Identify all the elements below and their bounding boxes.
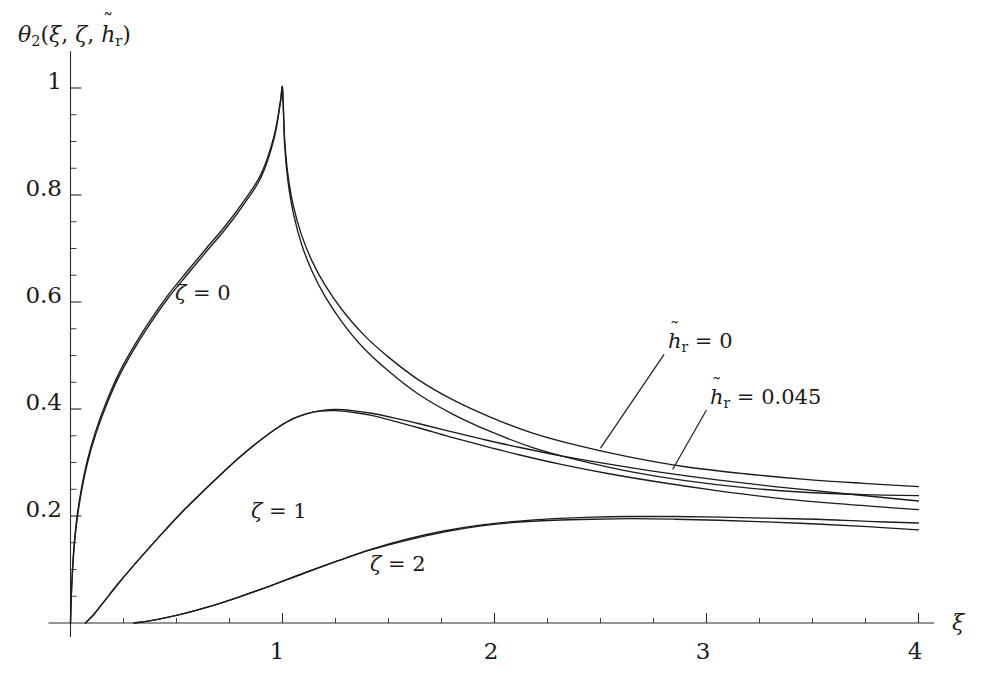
curve-4 [134,516,918,623]
x-tick-label-3: 3 [688,640,718,663]
y-tick-label-0.4: 0.4 [6,391,62,414]
curve-label-zeta-1: ζ = 1 [251,501,307,522]
y-tick-label-0.2: 0.2 [6,498,62,521]
annotation-h-r-0045: ˜hr = 0.045 [710,387,821,411]
curves-group [71,86,919,623]
annotation-h-r-0: ˜hr = 0 [668,331,733,355]
curve-label-zeta-2: ζ = 2 [370,554,426,575]
y-axis-zeta-symbol: ζ [75,22,87,47]
curve-3 [85,411,918,623]
axes-group [49,51,935,637]
y-axis-theta-subscript: 2 [31,33,40,49]
annot-h0-tilde-group: ˜h [668,331,682,352]
annot-h0-subscript: r [682,339,689,355]
curve-1 [71,87,919,623]
annot-h0-value: = 0 [695,329,733,353]
leader-lines-group [601,354,707,469]
y-axis-xi-symbol: ξ [49,22,61,47]
figure-container: θ2(ξ, ζ, ˜hr) ξ 1 0.8 0.6 0.4 0.2 1 2 3 … [0,0,993,688]
y-tick-label-0.8: 0.8 [6,177,62,200]
y-axis-h-tilde-group: ˜h [101,24,115,46]
annot-h045-value: = 0.045 [737,385,821,409]
leader-line-h-r-0 [601,354,665,448]
zeta-1-value: = 1 [269,499,307,523]
curve-5 [134,519,918,623]
y-axis-close-paren: ) [122,22,131,47]
y-tick-label-1: 1 [20,70,62,93]
zeta-0-value: = 0 [193,281,231,305]
leader-line-h-r-0045 [673,410,707,469]
chart-plot-area [0,0,993,688]
x-tick-label-2: 2 [476,640,506,663]
y-tick-label-0.6: 0.6 [6,284,62,307]
y-axis-title: θ2(ξ, ζ, ˜hr) [18,24,131,49]
x-tick-label-4: 4 [900,640,930,663]
zeta-2-value: = 2 [388,552,426,576]
x-axis-title: ξ [952,612,964,634]
zeta-1-symbol: ζ [251,499,262,523]
annot-h0-tilde-accent: ˜ [670,319,680,338]
annot-h045-tilde-accent: ˜ [712,375,722,394]
annot-h045-tilde-group: ˜h [710,387,724,408]
y-axis-theta-symbol: θ [18,22,31,47]
zeta-2-symbol: ζ [370,552,381,576]
zeta-0-symbol: ζ [175,281,186,305]
y-axis-comma-1: , [61,22,68,47]
curve-2 [85,410,918,623]
x-tick-label-1: 1 [262,640,292,663]
y-axis-comma-2: , [87,22,94,47]
curve-0 [71,86,919,623]
y-axis-open-paren: ( [41,22,50,47]
annot-h045-subscript: r [724,395,731,411]
curve-label-zeta-0: ζ = 0 [175,283,231,304]
y-axis-tilde-accent: ˜ [103,11,113,31]
